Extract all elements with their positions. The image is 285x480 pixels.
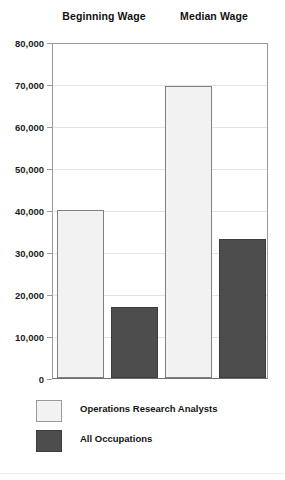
bar [111, 307, 158, 378]
group-header-row: Beginning Wage Median Wage [52, 10, 268, 32]
legend-item: Operations Research Analysts [36, 398, 266, 428]
bar [219, 239, 266, 378]
legend-item: All Occupations [36, 428, 266, 458]
gridline [53, 127, 267, 128]
bar [57, 210, 104, 378]
y-axis-tick-label: 80,000 [15, 38, 44, 49]
bar-chart: Beginning Wage Median Wage 80,00070,0006… [0, 0, 285, 480]
y-axis-tick-label: 40,000 [15, 206, 44, 217]
legend-item-label: Operations Research Analysts [80, 403, 217, 414]
plot-area [52, 43, 268, 379]
y-axis-tick-label: 10,000 [15, 332, 44, 343]
bottom-divider [0, 473, 285, 474]
legend-item-label: All Occupations [80, 433, 152, 444]
y-axis-tick-label: 60,000 [15, 122, 44, 133]
y-axis-tick-label: 50,000 [15, 164, 44, 175]
group-header-median-wage: Median Wage [158, 10, 270, 22]
y-axis: 80,00070,00060,00050,00040,00030,00020,0… [0, 43, 52, 379]
group-header-beginning-wage: Beginning Wage [48, 10, 160, 22]
gridline [53, 85, 267, 86]
y-axis-tick-label: 70,000 [15, 80, 44, 91]
chart-legend: Operations Research Analysts All Occupat… [36, 398, 266, 458]
y-axis-tick-label: 0 [39, 374, 44, 385]
y-axis-tick-label: 20,000 [15, 290, 44, 301]
legend-swatch-icon [36, 400, 62, 422]
bar [165, 86, 212, 378]
y-axis-tick-mark [47, 379, 52, 380]
legend-swatch-icon [36, 430, 62, 452]
y-axis-tick-label: 30,000 [15, 248, 44, 259]
gridline [53, 169, 267, 170]
